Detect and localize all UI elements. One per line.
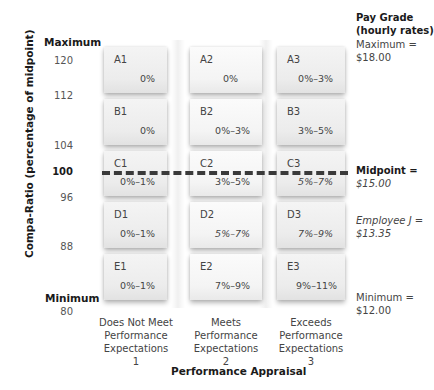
employee-j-rate: Employee J = $13.35 (356, 214, 423, 240)
grid-cell-A1: A1 0% (104, 47, 167, 93)
x-category-2: Meets Performance Expectations 2 (181, 316, 271, 368)
y-tick-80: 80 (45, 306, 73, 317)
grid-cell-E2: E2 7%–9% (190, 254, 262, 300)
cell-value: 0% (140, 125, 155, 136)
cell-value: 9%–11% (296, 280, 337, 291)
grid-cell-D3: D3 7%–9% (277, 202, 345, 248)
cell-value: 0%–1% (120, 228, 155, 239)
pay-grade-maximum: Maximum = $18.00 (356, 38, 417, 64)
cell-code: B3 (287, 106, 300, 117)
cell-value: 5%–7% (215, 228, 250, 239)
cell-code: E3 (287, 261, 300, 272)
cell-code: A2 (200, 54, 213, 65)
grid-cell-E1: E1 0%–1% (104, 254, 167, 300)
y-tick-96: 96 (45, 192, 73, 203)
cell-code: A3 (287, 54, 300, 65)
y-tick-100: 100 (45, 166, 73, 177)
grid-cell-D1: D1 0%–1% (104, 202, 167, 248)
cell-value: 7%–9% (298, 228, 333, 239)
pay-grade-midpoint: Midpoint = $15.00 (356, 164, 418, 190)
grid-cell-B1: B1 0% (104, 99, 167, 145)
y-tick-120: 120 (45, 55, 73, 66)
y-axis-maximum-label: Maximum (44, 36, 101, 48)
grid-cell-B2: B2 0%–3% (190, 99, 262, 145)
cell-code: B2 (200, 106, 213, 117)
cell-value: 0% (223, 73, 238, 84)
x-category-1: Does Not Meet Performance Expectations 1 (91, 316, 181, 368)
cell-value: 3%–5% (215, 176, 250, 187)
y-axis-minimum-label: Minimum (45, 292, 99, 304)
y-tick-104: 104 (45, 140, 73, 151)
cell-code: C1 (114, 158, 127, 169)
y-tick-112: 112 (45, 90, 73, 101)
cell-code: A1 (114, 54, 127, 65)
cell-code: E1 (114, 261, 127, 272)
cell-value: 0%–1% (120, 280, 155, 291)
grid-cell-D2: D2 5%–7% (190, 202, 262, 248)
cell-value: 0%–1% (120, 176, 155, 187)
grid-cell-A2: A2 0% (190, 47, 262, 93)
pay-grade-minimum: Minimum = $12.00 (356, 291, 414, 317)
cell-code: B1 (114, 106, 127, 117)
cell-code: D1 (114, 209, 128, 220)
cell-value: 0% (140, 73, 155, 84)
cell-code: C2 (200, 158, 213, 169)
y-tick-88: 88 (45, 241, 73, 252)
x-category-3: Exceeds Performance Expectations 3 (266, 316, 356, 368)
cell-value: 0%–3% (298, 73, 333, 84)
midpoint-dashed-line (102, 171, 348, 175)
x-axis-label: Performance Appraisal (171, 365, 306, 377)
grid-cell-A3: A3 0%–3% (277, 47, 345, 93)
grid-cell-E3: E3 9%–11% (277, 254, 345, 300)
cell-value: 5%–7% (298, 176, 333, 187)
cell-value: 0%–3% (215, 125, 250, 136)
cell-value: 7%–9% (215, 280, 250, 291)
cell-value: 3%–5% (298, 125, 333, 136)
cell-code: D2 (200, 209, 214, 220)
cell-code: D3 (287, 209, 301, 220)
grid-cell-B3: B3 3%–5% (277, 99, 345, 145)
cell-code: C3 (287, 158, 300, 169)
y-axis-label: Compa-Ratio (percentage of midpoint) (23, 58, 35, 258)
cell-code: E2 (200, 261, 213, 272)
pay-grade-title: Pay Grade (hourly rates) (356, 11, 434, 37)
